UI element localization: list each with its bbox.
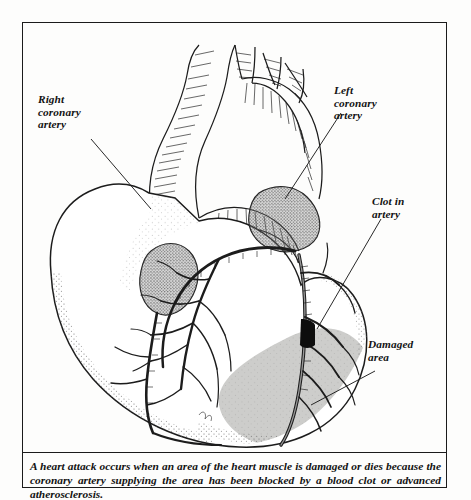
label-damaged-area: Damaged area bbox=[368, 338, 413, 363]
label-left-coronary-artery: Left coronary artery bbox=[334, 84, 377, 122]
figure-caption: A heart attack occurs when an area of th… bbox=[30, 459, 441, 500]
leader-left-coronary-artery bbox=[285, 113, 341, 199]
label-clot-in-artery: Clot in artery bbox=[372, 195, 404, 220]
illustration-page: Right coronary artery Left coronary arte… bbox=[0, 0, 471, 500]
clot-marker bbox=[300, 319, 315, 348]
label-right-coronary-artery: Right coronary artery bbox=[38, 93, 81, 131]
heart-diagram-svg bbox=[23, 23, 446, 452]
caption-divider bbox=[22, 452, 447, 453]
left-atrial-appendage bbox=[249, 187, 320, 252]
heart-illustration bbox=[23, 23, 446, 452]
